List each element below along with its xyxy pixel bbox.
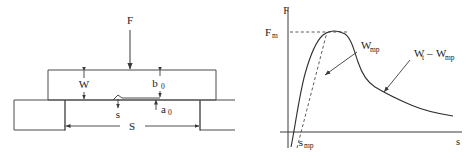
chart-canvas: F s F m s mp W mp W t – W mp xyxy=(235,0,469,161)
wmp-callout-arrow xyxy=(325,52,357,75)
peak-force-tick-label: F xyxy=(265,26,271,38)
notch-crack-path xyxy=(113,95,160,100)
ligament-label: b xyxy=(152,77,158,89)
y-axis-label: F xyxy=(283,5,289,16)
wt-wmp-callout-arrow xyxy=(384,60,410,92)
width-label: W xyxy=(79,78,90,90)
schematic-canvas: F W b 0 s a 0 xyxy=(0,0,235,161)
wmp-annotation-sub-2: mp xyxy=(445,53,455,62)
wt-annotation-sub: t xyxy=(422,53,425,62)
specimen-loading-schematic: F W b 0 s a 0 xyxy=(0,0,235,161)
crack-length-label-sub: 0 xyxy=(168,108,172,117)
smp-tick-label: s xyxy=(299,136,303,148)
span-label: S xyxy=(129,120,135,132)
wt-annotation-operator: – xyxy=(426,47,433,59)
figure-root: F W b 0 s a 0 xyxy=(0,0,469,161)
force-displacement-chart: F s F m s mp W mp W t – W mp xyxy=(235,0,469,161)
force-label: F xyxy=(127,14,133,26)
x-axis-label: s xyxy=(456,136,460,147)
right-support-block xyxy=(200,100,235,130)
wmp-annotation-sub: mp xyxy=(370,45,380,54)
chart-axes xyxy=(280,8,462,148)
ligament-label-sub: 0 xyxy=(161,82,165,91)
upper-beam-outline xyxy=(48,70,216,100)
left-support-block xyxy=(14,100,65,130)
displacement-label: s xyxy=(116,108,120,120)
crack-length-label: a xyxy=(161,103,166,115)
peak-force-tick-sub: m xyxy=(272,31,278,40)
smp-tick-sub: mp xyxy=(304,141,314,150)
